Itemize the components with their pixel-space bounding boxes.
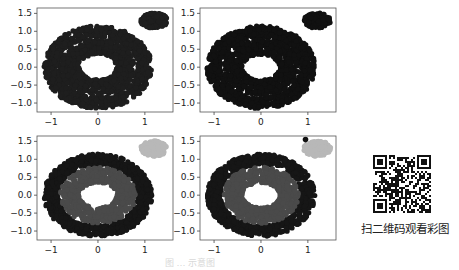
x-tick-label: −1 bbox=[207, 117, 220, 127]
scatter-points bbox=[42, 138, 169, 238]
y-tick-label: −0.5 bbox=[173, 80, 195, 90]
x-tick-label: 1 bbox=[305, 245, 311, 255]
y-tick-label: 1.5 bbox=[181, 136, 195, 146]
y-tick-label: −1.0 bbox=[10, 98, 32, 108]
scatter-points bbox=[205, 137, 333, 239]
x-tick-label: 1 bbox=[142, 245, 148, 255]
x-tick-label: 0 bbox=[258, 117, 264, 127]
qr-code-icon bbox=[373, 155, 431, 213]
y-tick-label: 1.0 bbox=[18, 26, 33, 36]
x-tick-label: 0 bbox=[95, 117, 101, 127]
y-tick-label: 0.0 bbox=[18, 190, 33, 200]
y-tick-label: 1.5 bbox=[18, 136, 32, 146]
plot-bottom-left: 1.51.00.50.0−0.5−1.0−101 bbox=[0, 128, 180, 258]
plot-top-right: 1.51.00.50.0−0.5−1.0−101 bbox=[163, 0, 343, 130]
qr-caption: 扫二维码观看彩图 bbox=[352, 220, 457, 236]
plot-top-left: 1.51.00.50.0−0.5−1.0−101 bbox=[0, 0, 180, 130]
y-tick-label: 1.0 bbox=[181, 26, 196, 36]
scatter-points bbox=[205, 11, 333, 111]
y-tick-label: −0.5 bbox=[173, 208, 195, 218]
y-tick-label: 0.0 bbox=[18, 62, 33, 72]
y-tick-label: 1.5 bbox=[18, 8, 32, 18]
y-tick-label: 1.0 bbox=[18, 154, 33, 164]
y-tick-label: 0.5 bbox=[18, 44, 32, 54]
y-tick-label: 0.5 bbox=[181, 44, 195, 54]
y-tick-label: −0.5 bbox=[10, 208, 32, 218]
x-tick-label: −1 bbox=[44, 117, 57, 127]
scatter-plot: 1.51.00.50.0−0.5−1.0−101 bbox=[163, 128, 343, 258]
plot-bottom-right: 1.51.00.50.0−0.5−1.0−101 bbox=[163, 128, 343, 258]
x-tick-label: 0 bbox=[258, 245, 264, 255]
x-tick-label: 1 bbox=[305, 117, 311, 127]
y-tick-label: 1.5 bbox=[181, 8, 195, 18]
y-tick-label: 1.0 bbox=[181, 154, 196, 164]
y-tick-label: 0.0 bbox=[181, 190, 196, 200]
y-tick-label: 0.5 bbox=[18, 172, 32, 182]
scatter-plot: 1.51.00.50.0−0.5−1.0−101 bbox=[0, 0, 180, 130]
y-tick-label: 0.0 bbox=[181, 62, 196, 72]
y-tick-label: −1.0 bbox=[173, 98, 195, 108]
x-tick-label: 0 bbox=[95, 245, 101, 255]
scatter-plot: 1.51.00.50.0−0.5−1.0−101 bbox=[163, 0, 343, 130]
scatter-plot: 1.51.00.50.0−0.5−1.0−101 bbox=[0, 128, 180, 258]
x-tick-label: −1 bbox=[44, 245, 57, 255]
scatter-points bbox=[42, 11, 170, 111]
y-tick-label: −0.5 bbox=[10, 80, 32, 90]
figure-caption: 图 … 示意图 bbox=[110, 256, 270, 269]
y-tick-label: 0.5 bbox=[181, 172, 195, 182]
y-tick-label: −1.0 bbox=[173, 226, 195, 236]
qr-code bbox=[373, 155, 431, 213]
x-tick-label: 1 bbox=[142, 117, 148, 127]
y-tick-label: −1.0 bbox=[10, 226, 32, 236]
x-tick-label: −1 bbox=[207, 245, 220, 255]
